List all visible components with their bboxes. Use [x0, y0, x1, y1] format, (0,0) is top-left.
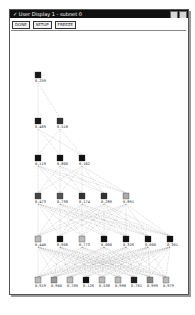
unit-activation-label: 0.473	[35, 200, 46, 204]
unit-activation-label: 0.538	[99, 284, 110, 288]
unit-node[interactable]	[51, 277, 57, 283]
connection-line	[82, 247, 166, 277]
connection-line	[82, 204, 148, 236]
unit-activation-label: 0.289	[101, 200, 112, 204]
unit-node[interactable]	[147, 277, 153, 283]
connection-line	[54, 247, 104, 277]
connection-line	[60, 247, 102, 277]
unit-activation-label: 0.440	[35, 243, 46, 247]
unit-node[interactable]	[57, 193, 63, 199]
unit-node[interactable]	[115, 277, 121, 283]
network-diagram: 0.2590.4690.5180.1190.8000.1620.4730.738…	[0, 0, 195, 315]
connection-line	[38, 83, 60, 118]
unit-node[interactable]	[35, 72, 41, 78]
unit-activation-label: 0.701	[131, 284, 142, 288]
unit-activation-label: 0.906	[57, 243, 68, 247]
connection-line	[70, 247, 104, 277]
connection-line	[104, 204, 170, 236]
unit-node[interactable]	[35, 193, 41, 199]
connection-line	[38, 247, 82, 277]
unit-node[interactable]	[57, 155, 63, 161]
unit-node[interactable]	[145, 236, 151, 242]
unit-node[interactable]	[35, 118, 41, 124]
unit-node[interactable]	[35, 277, 41, 283]
connection-line	[104, 247, 166, 277]
connection-line	[54, 247, 82, 277]
unit-activation-label: 0.126	[83, 284, 94, 288]
connection-line	[86, 247, 148, 277]
connection-line	[126, 204, 170, 236]
unit-node[interactable]	[57, 236, 63, 242]
unit-node[interactable]	[163, 277, 169, 283]
connection-line	[38, 247, 54, 277]
connection-line	[102, 247, 104, 277]
unit-activation-label: 0.301	[167, 243, 178, 247]
unit-activation-label: 0.119	[35, 162, 46, 166]
connection-line	[82, 166, 104, 193]
unit-activation-label: 0.919	[35, 284, 46, 288]
unit-activation-label: 0.891	[123, 200, 134, 204]
unit-node[interactable]	[123, 236, 129, 242]
connection-line	[134, 247, 170, 277]
unit-activation-label: 0.326	[123, 243, 134, 247]
unit-activation-label: 0.900	[51, 284, 62, 288]
unit-node[interactable]	[57, 118, 63, 124]
unit-node[interactable]	[99, 277, 105, 283]
unit-activation-label: 0.518	[57, 125, 68, 129]
unit-activation-label: 0.259	[35, 79, 46, 83]
unit-node[interactable]	[123, 193, 129, 199]
unit-activation-label: 0.709	[67, 284, 78, 288]
unit-activation-label: 0.998	[115, 284, 126, 288]
unit-node[interactable]	[35, 155, 41, 161]
unit-activation-label: 0.000	[145, 243, 156, 247]
unit-node[interactable]	[101, 236, 107, 242]
unit-node[interactable]	[167, 236, 173, 242]
unit-activation-label: 0.000	[101, 243, 112, 247]
connection-line	[86, 247, 170, 277]
unit-activation-label: 0.999	[147, 284, 158, 288]
unit-node[interactable]	[83, 277, 89, 283]
unit-activation-label: 0.162	[79, 162, 90, 166]
connection-line	[70, 247, 126, 277]
unit-activation-label: 0.469	[35, 125, 46, 129]
unit-node[interactable]	[131, 277, 137, 283]
unit-node[interactable]	[101, 193, 107, 199]
unit-node[interactable]	[79, 155, 85, 161]
connection-line	[54, 247, 60, 277]
connection-line	[60, 247, 150, 277]
unit-activation-label: 0.174	[79, 200, 90, 204]
unit-activation-label: 0.979	[163, 284, 174, 288]
connection-line	[60, 129, 82, 155]
unit-activation-label: 0.738	[57, 200, 68, 204]
unit-node[interactable]	[79, 236, 85, 242]
connection-line	[38, 247, 60, 277]
connection-line	[38, 166, 104, 193]
connection-line	[60, 166, 126, 193]
connection-line	[166, 247, 170, 277]
unit-activation-label: 0.800	[57, 162, 68, 166]
connection-line	[82, 247, 134, 277]
unit-node[interactable]	[67, 277, 73, 283]
unit-activation-label: 0.773	[79, 243, 90, 247]
unit-node[interactable]	[79, 193, 85, 199]
unit-node[interactable]	[35, 236, 41, 242]
connection-line	[118, 247, 170, 277]
connection-line	[82, 166, 126, 193]
